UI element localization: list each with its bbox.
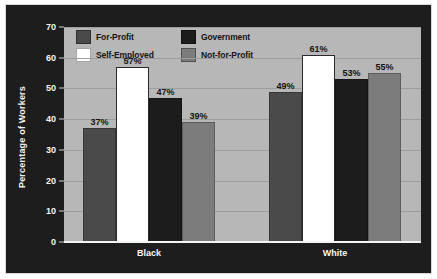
bar: 47% [149, 98, 182, 242]
x-axis: BlackWhite [64, 245, 421, 267]
y-axis-tick-label: 10 [46, 206, 56, 216]
y-axis-tick-label: 20 [46, 176, 56, 186]
legend-label: For-Profit [96, 32, 134, 42]
legend-swatch-icon [181, 48, 196, 62]
bar-value-label: 49% [276, 81, 294, 91]
plot-area: For-ProfitGovernmentSelf-EmployedNot-for… [64, 27, 421, 242]
y-axis: 010203040506070 [30, 23, 64, 247]
y-axis-tick-label: 50 [46, 83, 56, 93]
y-axis-tick-label: 0 [51, 237, 56, 247]
legend-item-government: Government [181, 28, 296, 46]
chart-legend: For-ProfitGovernmentSelf-EmployedNot-for… [76, 28, 296, 65]
y-axis-tick-label: 60 [46, 53, 56, 63]
legend-swatch-icon [76, 30, 91, 44]
y-axis-tick-label: 70 [46, 22, 56, 32]
gridline [64, 58, 421, 59]
bar-value-label: 47% [156, 87, 174, 97]
y-axis-title-label: Percentage of Workers [17, 86, 27, 188]
legend-swatch-icon [76, 48, 91, 62]
x-axis-category-label: White [323, 248, 348, 258]
bar-value-label: 37% [90, 117, 108, 127]
bar: 61% [302, 55, 335, 242]
bar-value-label: 53% [342, 68, 360, 78]
bar: 39% [182, 122, 215, 242]
chart-panel: Percentage of Workers 010203040506070 Fo… [5, 4, 432, 274]
legend-item-not-for-profit: Not-for-Profit [181, 46, 296, 64]
y-axis-tick-label: 40 [46, 114, 56, 124]
bar-value-label: 57% [123, 56, 141, 66]
bar-value-label: 55% [375, 62, 393, 72]
bar: 49% [269, 92, 302, 243]
x-axis-baseline [64, 241, 421, 243]
legend-swatch-icon [181, 30, 196, 44]
bar: 37% [83, 128, 116, 242]
chart-root: Percentage of Workers 010203040506070 Fo… [0, 0, 437, 279]
y-axis-title: Percentage of Workers [14, 29, 30, 245]
bar-value-label: 61% [309, 44, 327, 54]
bar-value-label: 39% [189, 111, 207, 121]
x-axis-category-label: Black [137, 248, 161, 258]
legend-item-for-profit: For-Profit [76, 28, 181, 46]
legend-label: Government [201, 32, 250, 42]
y-axis-tick-label: 30 [46, 145, 56, 155]
bar: 57% [116, 67, 149, 242]
bar: 53% [335, 79, 368, 242]
bar: 55% [368, 73, 401, 242]
gridline [64, 27, 421, 28]
